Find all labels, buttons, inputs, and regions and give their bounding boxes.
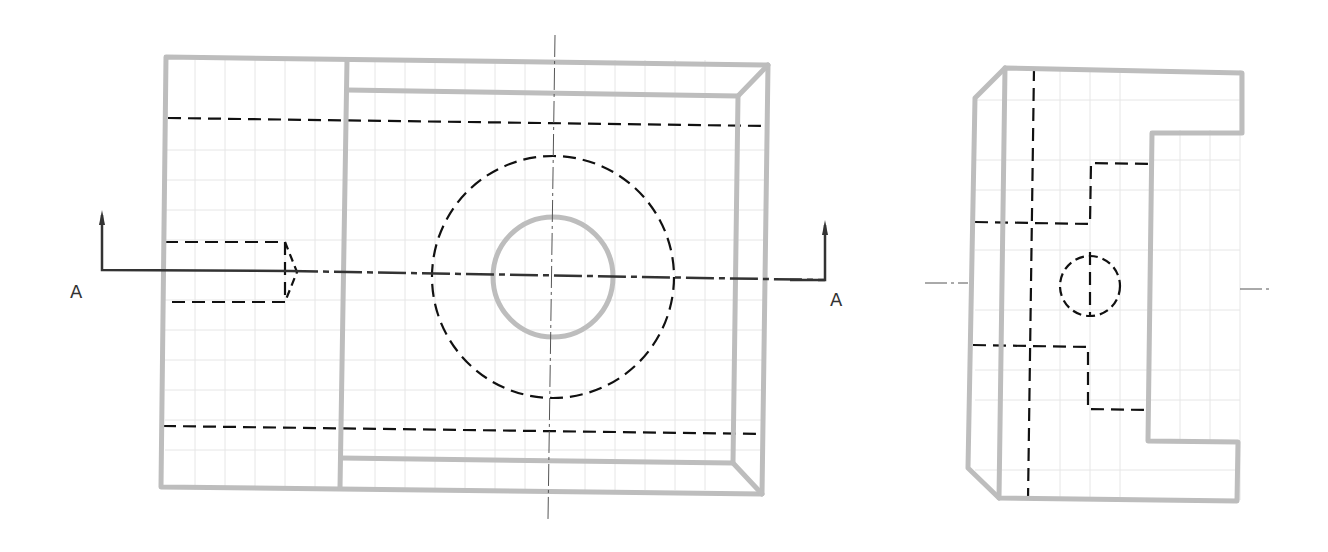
arrow-up-left-icon bbox=[99, 210, 105, 225]
section-label-right: A bbox=[830, 289, 843, 310]
through-hole bbox=[493, 217, 613, 337]
side-view bbox=[925, 68, 1272, 501]
arrow-up-right-icon bbox=[822, 220, 828, 235]
section-arrow-right bbox=[790, 225, 825, 280]
vertical-centerline bbox=[548, 35, 555, 520]
counterbore-hidden-circle bbox=[432, 156, 674, 398]
front-view: A A bbox=[70, 35, 843, 520]
section-line bbox=[290, 271, 825, 280]
technical-drawing: A A bbox=[0, 0, 1328, 552]
step-edge bbox=[340, 60, 347, 488]
chamfer-bottom-right bbox=[733, 463, 762, 494]
chamfer-top-right bbox=[738, 65, 768, 96]
section-label-left: A bbox=[70, 281, 83, 302]
hidden-vertical-line bbox=[1028, 68, 1034, 500]
